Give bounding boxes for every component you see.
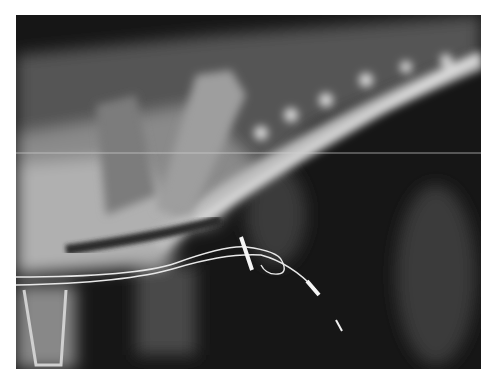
xray-illustration [16, 15, 481, 369]
xray-image [16, 15, 481, 369]
